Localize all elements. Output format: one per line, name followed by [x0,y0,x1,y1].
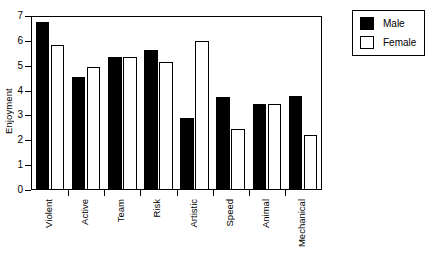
x-axis-label-risk: Risk [151,199,165,217]
x-axis-tick [213,190,214,196]
y-axis-tick-label: 1 [1,160,23,170]
x-axis-tick [104,190,105,196]
y-axis-tick-label: 5 [1,61,23,71]
legend: Male Female [352,10,425,56]
legend-label-male: Male [383,19,405,29]
x-axis-label-violent: Violent [43,199,57,228]
bar-artistic-female [195,41,209,190]
legend-entry-female: Female [360,36,416,49]
y-axis-tick-label: 7 [1,11,23,21]
bar-speed-female [231,129,245,190]
bar-active-male [72,77,86,190]
bar-animal-female [268,104,282,190]
bar-risk-female [159,62,173,190]
bar-mechanical-female [304,135,318,190]
y-axis-tick-label: 2 [1,135,23,145]
bar-artistic-male [180,118,194,190]
bar-violent-male [36,22,50,190]
bar-team-male [108,57,122,190]
x-axis-label-speed: Speed [224,199,238,226]
bar-chart: Enjoyment 01234567 ViolentActiveTeamRisk… [0,0,430,261]
bar-violent-female [51,45,65,190]
x-axis-label-mechanical: Mechanical [296,199,310,247]
x-axis-tick [177,190,178,196]
y-axis-tick-label: 4 [1,86,23,96]
x-axis-tick [140,190,141,196]
bar-active-female [87,67,101,190]
x-axis-tick [285,190,286,196]
bar-mechanical-male [289,96,303,190]
bar-risk-male [144,50,158,190]
x-axis-tick [249,190,250,196]
x-axis-label-team: Team [115,199,129,222]
bar-team-female [123,57,137,190]
y-axis-tick-label: 0 [1,185,23,195]
bar-animal-male [253,104,267,190]
legend-swatch-female-icon [360,36,374,49]
x-axis-tick [68,190,69,196]
legend-entry-male: Male [360,17,405,30]
x-axis-label-active: Active [79,199,93,225]
y-axis-tick-label: 6 [1,36,23,46]
legend-swatch-male-icon [360,17,374,30]
y-axis-tick [25,190,31,191]
y-axis-tick-label: 3 [1,110,23,120]
legend-label-female: Female [383,38,416,48]
bars-layer [32,17,321,190]
x-axis-label-animal: Animal [260,199,274,228]
bar-speed-male [216,97,230,190]
x-axis-label-artistic: Artistic [188,199,202,228]
